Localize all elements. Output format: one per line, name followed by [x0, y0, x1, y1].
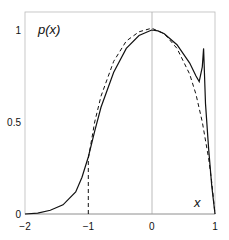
- y-tick-labels: 00.51: [7, 25, 21, 220]
- x-tick-label: −1: [83, 221, 95, 232]
- x-tick-label: 0: [149, 221, 155, 232]
- chart: −2−101 00.51 p(x) x: [0, 0, 229, 240]
- y-tick-label: 0: [15, 209, 21, 220]
- x-tick-label: −2: [19, 221, 31, 232]
- y-tick-label: 1: [15, 25, 21, 36]
- x-axis-label: x: [193, 195, 201, 210]
- x-tick-labels: −2−101: [19, 221, 218, 232]
- x-tick-label: 1: [212, 221, 218, 232]
- plot-frame: [25, 12, 215, 214]
- y-tick-label: 0.5: [7, 117, 21, 128]
- solid-series-line: [25, 30, 215, 214]
- y-axis-label: p(x): [37, 22, 60, 37]
